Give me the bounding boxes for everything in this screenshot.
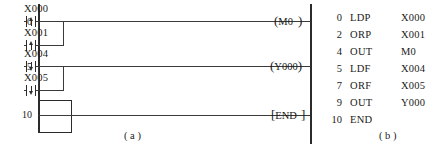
output-instruction-end[interactable]: [END]	[271, 109, 305, 122]
wire-rung2-main	[38, 115, 310, 116]
wire-rung1-branch	[38, 90, 64, 91]
instruction-step: 4	[322, 44, 342, 60]
coil-label-m0: M0	[278, 16, 293, 27]
instruction-row[interactable]: 10 END	[322, 112, 445, 128]
output-coil-y000[interactable]: (Y000)	[270, 60, 302, 73]
branch-vwire-right-rung1	[63, 66, 64, 91]
coil-close-paren: )	[298, 13, 302, 28]
caption-a: ( a )	[124, 130, 141, 142]
branch-vwire-left-rung1	[38, 66, 39, 91]
end-close-bracket: ]	[301, 107, 305, 122]
instruction-op: OUT	[350, 95, 372, 111]
right-power-rail	[310, 4, 312, 144]
instruction-row[interactable]: 7 ORF X005	[322, 78, 445, 94]
instruction-op: OUT	[350, 44, 372, 60]
falling-pulse-contact-icon-x005[interactable]	[24, 85, 38, 96]
coil-close-paren: )	[298, 58, 302, 73]
contact-label-x004: X004	[24, 48, 48, 59]
contact-label-x005: X005	[24, 72, 48, 83]
instruction-op: LDP	[350, 10, 371, 26]
instruction-step: 7	[322, 78, 342, 94]
instruction-list-panel: 0 LDP X000 2 ORP X001 4 OUT M0 5 LDF X00…	[322, 0, 445, 148]
contact-label-x000: X000	[24, 3, 48, 14]
instruction-op: END	[350, 112, 372, 128]
coil-label-y000: Y000	[274, 61, 297, 72]
end-label: END	[275, 110, 297, 121]
wire-rung0-main	[38, 21, 310, 22]
instruction-arg: M0	[401, 44, 416, 60]
instruction-op: ORF	[350, 78, 371, 94]
instruction-step: 10	[322, 112, 342, 128]
instruction-arg: Y000	[401, 95, 425, 111]
instruction-step: 9	[322, 95, 342, 111]
instruction-step: 0	[322, 10, 342, 26]
instruction-op: LDF	[350, 61, 371, 77]
instruction-op: ORP	[350, 27, 371, 43]
figure-plc-ladder-and-instruction-list: 0 X000 X001 (M0) 5 X004	[0, 0, 445, 148]
branch-vwire-right-rung0	[63, 21, 64, 46]
rising-pulse-contact-icon-x000[interactable]	[24, 16, 38, 27]
instruction-arg: X004	[401, 61, 425, 77]
instruction-arg: X005	[401, 78, 425, 94]
instruction-step: 5	[322, 61, 342, 77]
instruction-step: 2	[322, 27, 342, 43]
instruction-row[interactable]: 5 LDF X004	[322, 61, 445, 77]
rung-step-number-10: 10	[6, 110, 32, 120]
contact-label-x001: X001	[24, 27, 48, 38]
end-rung-block	[38, 100, 72, 133]
instruction-arg: X001	[401, 27, 425, 43]
instruction-row[interactable]: 2 ORP X001	[322, 27, 445, 43]
falling-pulse-contact-icon-x004[interactable]	[24, 61, 38, 72]
branch-vwire-left-rung0	[38, 21, 39, 46]
output-coil-m0[interactable]: (M0)	[274, 15, 302, 28]
instruction-arg: X000	[401, 10, 425, 26]
ladder-diagram-panel: 0 X000 X001 (M0) 5 X004	[0, 0, 320, 148]
instruction-row[interactable]: 0 LDP X000	[322, 10, 445, 26]
instruction-row[interactable]: 9 OUT Y000	[322, 95, 445, 111]
wire-rung0-branch	[38, 45, 64, 46]
instruction-row[interactable]: 4 OUT M0	[322, 44, 445, 60]
caption-b: ( b )	[379, 130, 397, 142]
